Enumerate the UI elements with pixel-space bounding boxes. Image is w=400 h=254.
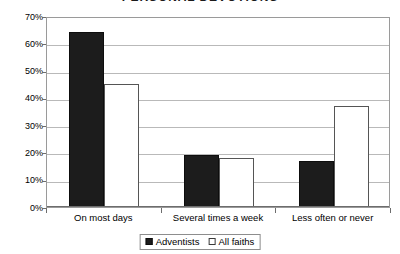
bar-adventists: [184, 155, 219, 207]
bar-adventists: [299, 161, 334, 207]
x-axis-tick-mark: [46, 208, 47, 213]
bar-allfaiths: [334, 106, 369, 207]
bar-adventists: [69, 32, 104, 207]
bar-allfaiths: [104, 84, 139, 207]
axis-baseline: [47, 206, 389, 207]
legend-item-adventists: Adventists: [146, 236, 200, 247]
y-axis-tick-label: 30%: [3, 122, 43, 131]
legend-swatch-icon: [146, 238, 153, 245]
y-axis-tick-label: 70%: [3, 13, 43, 22]
legend-label: All faiths: [218, 236, 254, 247]
y-axis-tick-label: 50%: [3, 67, 43, 76]
legend-item-all-faiths: All faiths: [208, 236, 254, 247]
y-axis-tick-label: 40%: [3, 94, 43, 103]
bar-chart: PERSONAL DEVOTIONS 70%60%50%40%30%20%10%…: [0, 0, 400, 254]
plot-area: [46, 17, 390, 208]
legend-label: Adventists: [156, 236, 200, 247]
y-axis-tick-label: 20%: [3, 149, 43, 158]
x-axis-tick-mark: [390, 208, 391, 213]
legend-swatch-icon: [208, 238, 215, 245]
bar-allfaiths: [219, 158, 254, 207]
chart-title: PERSONAL DEVOTIONS: [0, 0, 400, 4]
chart-legend: Adventists All faiths: [140, 234, 261, 250]
y-axis-tick-label: 60%: [3, 40, 43, 49]
x-axis-category-label: Less often or never: [253, 212, 400, 224]
y-axis-tick-label: 10%: [3, 176, 43, 185]
